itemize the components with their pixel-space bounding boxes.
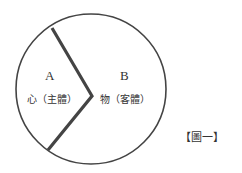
region-a-letter: A: [45, 68, 54, 84]
region-b-letter: B: [120, 68, 129, 84]
outer-circle: [16, 14, 166, 164]
dividing-wedge-line: [48, 28, 92, 150]
region-b-label: 物（客體）: [100, 91, 150, 106]
figure-caption: 【圖一】: [180, 128, 224, 144]
region-a-label: 心（主體）: [27, 91, 77, 106]
diagram-canvas: [0, 0, 242, 173]
